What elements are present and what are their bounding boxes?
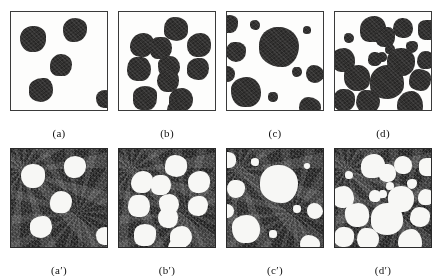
panel-a-prime-image (10, 148, 108, 248)
blob (417, 51, 432, 69)
blob (397, 91, 423, 111)
blob (268, 92, 278, 102)
panel-d-prime-wrap: (d′) (334, 148, 432, 248)
blob (419, 158, 432, 176)
panel-b-prime-wrap: (b′) (118, 148, 216, 248)
blob (187, 33, 211, 57)
blob (250, 20, 260, 30)
blob (344, 33, 354, 43)
panel-a-image (10, 11, 108, 111)
blob (377, 52, 387, 62)
blob (344, 65, 370, 91)
panel-b-wrap: (b) (118, 11, 216, 111)
blob (188, 196, 208, 216)
blob (226, 66, 235, 82)
blob (307, 203, 323, 219)
blob (251, 158, 259, 166)
panel-b-prime-image (118, 148, 216, 248)
blob (127, 57, 151, 81)
panel-c-prime-image (226, 148, 324, 248)
blob (188, 171, 210, 193)
blob (128, 195, 150, 217)
blob (292, 67, 302, 77)
blob (232, 215, 260, 243)
panel-c-wrap: (c) (226, 11, 324, 111)
blob (334, 227, 354, 247)
panel-c-image (226, 11, 324, 111)
blob (393, 18, 413, 38)
figure-row-bottom: (a′) (b′) (c′) (d′) (0, 138, 441, 276)
blob (133, 86, 157, 110)
blob (226, 15, 238, 33)
blob (231, 77, 261, 107)
blob (303, 26, 311, 34)
blob (394, 156, 412, 174)
blob (158, 208, 178, 228)
blob (164, 17, 188, 41)
panel-d-image (334, 11, 432, 111)
blob (398, 229, 422, 248)
blob (357, 228, 379, 248)
blob (345, 203, 369, 227)
panel-d-prime-image (334, 148, 432, 248)
figure-panel-grid: (a) (b) (c) (d) (a′) ( (0, 0, 441, 276)
panel-d-prime-caption: (d′) (334, 264, 432, 276)
blob (410, 207, 430, 227)
panel-a-wrap: (a) (10, 11, 108, 111)
blob (151, 175, 171, 195)
blob (379, 190, 387, 198)
blob (187, 58, 209, 80)
blob (345, 171, 353, 179)
blob (134, 224, 156, 246)
blob (96, 90, 108, 108)
blob (168, 239, 186, 248)
blob (96, 227, 108, 245)
blob (334, 89, 355, 111)
blob (165, 155, 187, 177)
blob (226, 42, 246, 62)
blob (356, 90, 380, 111)
panel-c-prime-caption: (c′) (226, 264, 324, 276)
panel-b-prime-caption: (b′) (118, 264, 216, 276)
blob (29, 78, 53, 102)
panel-a-prime-wrap: (a′) (10, 148, 108, 248)
panel-a-prime-caption: (a′) (10, 264, 108, 276)
blob (269, 230, 277, 238)
blob (293, 205, 301, 213)
blob (20, 26, 46, 52)
blob (409, 69, 431, 91)
panel-d-wrap: (d) (334, 11, 432, 111)
blob (371, 203, 403, 235)
blob (306, 65, 324, 83)
blob (131, 171, 153, 193)
blob (30, 216, 52, 238)
blob (227, 180, 245, 198)
blob (63, 18, 87, 42)
panel-c-prime-wrap: (c′) (226, 148, 324, 248)
blob (259, 27, 299, 67)
blob (299, 97, 321, 111)
blob (50, 191, 72, 213)
blob (418, 189, 432, 205)
blob (260, 165, 298, 203)
figure-row-top: (a) (b) (c) (d) (0, 0, 441, 138)
blob (50, 54, 72, 76)
blob (304, 163, 310, 169)
blob (418, 20, 432, 40)
blob (21, 164, 45, 188)
panel-b-image (118, 11, 216, 111)
